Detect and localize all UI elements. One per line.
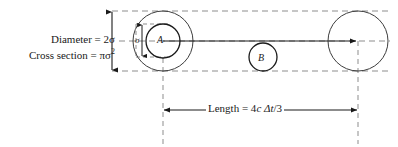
collision-cylinder-figure: Diameter = 2σ Cross section = πσ2 Length… — [0, 0, 398, 147]
cross-section-label: Cross section = πσ2 — [29, 47, 115, 61]
molecule-b-label: B — [258, 52, 264, 63]
diagram-canvas — [0, 0, 398, 147]
diameter-label: Diameter = 2σ — [51, 33, 115, 45]
length-label: Length = 4c Δt/3 — [206, 102, 284, 114]
length-label-prefix: Length = 4 — [208, 102, 256, 114]
cross-section-exponent: 2 — [111, 47, 115, 56]
cross-section-text: Cross section = πσ — [29, 49, 111, 61]
length-label-suffix: /3 — [274, 102, 283, 114]
length-label-speed-symbol: c — [256, 102, 261, 114]
length-label-delta-t: Δt — [264, 102, 274, 114]
molecule-a-label: A — [157, 34, 163, 45]
radius-sigma-label: σ — [135, 35, 139, 45]
